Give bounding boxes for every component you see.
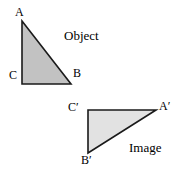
vertex-label-a-prime: A′	[159, 100, 170, 112]
object-caption: Object	[64, 29, 99, 42]
vertex-label-b-prime: B′	[81, 154, 92, 166]
geometry-figure: A B C A′ B′ C′ Object Image	[0, 0, 175, 171]
vertex-label-b: B	[73, 67, 81, 79]
vertex-label-c-prime: C′	[68, 101, 79, 113]
image-caption: Image	[129, 141, 161, 154]
vertex-label-a: A	[15, 6, 24, 18]
vertex-label-c: C	[9, 69, 17, 81]
